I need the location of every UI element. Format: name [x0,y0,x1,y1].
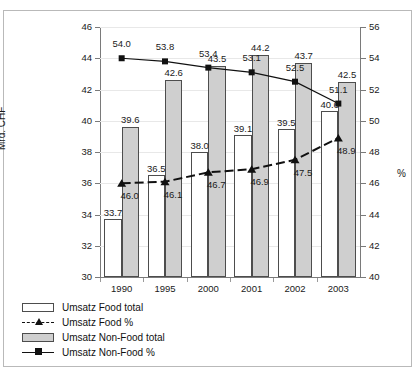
y-tick-label-right: 50 [369,115,395,126]
line-label-non-food-percent: 53.1 [232,52,272,63]
line-label-non-food-percent: 51.1 [318,84,358,95]
combo-chart: Mrd. CHF % 303234363840424446 4042444648… [0,0,418,376]
bar-label-food: 40.6 [310,99,350,110]
y-tick-right [361,215,366,216]
y-tick-label-left: 42 [60,84,92,95]
line-label-non-food-percent: 52.5 [275,62,315,73]
bar-label-food: 33.7 [93,207,133,218]
x-tick [273,278,274,282]
legend-label: Umsatz Non-Food % [62,347,155,358]
y-tick-right [361,277,366,278]
y-tick-label-left: 38 [60,146,92,157]
marker-square [205,65,211,71]
legend-key-icon [22,345,56,360]
line-label-food-percent: 46.9 [240,176,280,187]
line-label-non-food-percent: 54.0 [102,38,142,49]
bar-label-food: 38.0 [180,140,220,151]
legend-key-icon [22,315,56,330]
line-label-non-food-percent: 53.8 [145,41,185,52]
line-label-food-percent: 48.9 [326,145,366,156]
bar-label-food: 36.5 [136,163,176,174]
y-tick-right [361,58,366,59]
y-tick-label-right: 54 [369,52,395,63]
y-tick-label-left: 46 [60,21,92,32]
bar-label-non-food: 39.6 [110,114,150,125]
x-tick-label: 2002 [272,283,318,294]
x-tick [230,278,231,282]
y-tick-label-right: 48 [369,146,395,157]
marker-square [162,58,168,64]
swatch-gray-icon [22,333,54,342]
legend-item[interactable]: Umsatz Non-Food total [22,330,282,345]
y-tick-label-left: 34 [60,209,92,220]
triangle-marker-icon [35,318,43,325]
y-tick-label-left: 36 [60,177,92,188]
x-tick-label: 1990 [99,283,145,294]
marker-triangle [334,134,343,142]
bar-label-food: 39.5 [266,117,306,128]
legend-key-icon [22,330,56,345]
line-label-food-percent: 46.0 [110,190,150,201]
y-tick-right [361,121,366,122]
y-tick-label-right: 46 [369,177,395,188]
x-tick [317,278,318,282]
x-tick-label: 2003 [315,283,361,294]
y-tick-label-left: 40 [60,115,92,126]
y-tick-right [361,27,366,28]
marker-square [119,55,125,61]
y-tick-label-right: 44 [369,209,395,220]
swatch-white-icon [22,303,54,312]
legend-item[interactable]: Umsatz Non-Food % [22,345,282,360]
legend-label: Umsatz Non-Food total [62,332,165,343]
y-tick-label-left: 44 [60,52,92,63]
y-tick-right [361,90,366,91]
x-tick [143,278,144,282]
x-tick-label: 2001 [229,283,275,294]
y-axis-title-right: % [397,168,406,179]
legend-item[interactable]: Umsatz Food total [22,300,282,315]
bar-label-non-food: 43.7 [284,50,324,61]
square-marker-icon [35,348,42,355]
line-label-food-percent: 46.7 [196,179,236,190]
marker-square [292,79,298,85]
chart-legend: Umsatz Food totalUmsatz Food %Umsatz Non… [22,300,282,360]
line-label-food-percent: 46.1 [153,189,193,200]
marker-square [249,69,255,75]
bar-label-food: 39.1 [223,123,263,134]
y-tick-label-right: 52 [369,84,395,95]
x-tick-label: 1995 [142,283,188,294]
y-tick-right [361,183,366,184]
y-tick-label-right: 42 [369,240,395,251]
legend-label: Umsatz Food % [62,317,133,328]
y-tick-label-left: 30 [60,271,92,282]
y-tick-label-left: 32 [60,240,92,251]
line-label-food-percent: 47.5 [283,167,323,178]
legend-key-icon [22,300,56,315]
bar-label-non-food: 42.5 [327,69,367,80]
y-tick-label-right: 56 [369,21,395,32]
y-tick-right [361,246,366,247]
y-axis-title-left: Mrd. CHF [0,107,7,150]
line-label-non-food-percent: 53.4 [188,48,228,59]
y-tick-label-right: 40 [369,271,395,282]
legend-item[interactable]: Umsatz Food % [22,315,282,330]
legend-label: Umsatz Food total [62,302,143,313]
x-tick [187,278,188,282]
x-tick [100,278,101,282]
line-series-layer [100,27,360,277]
x-tick-label: 2000 [185,283,231,294]
bar-label-non-food: 42.6 [154,67,194,78]
